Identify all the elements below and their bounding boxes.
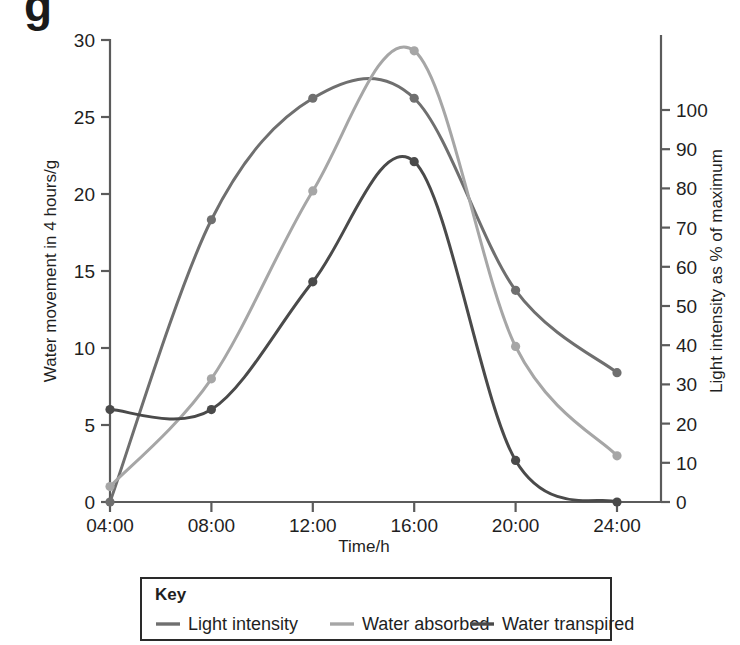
data-point-marker xyxy=(410,46,419,55)
data-point-marker xyxy=(308,94,317,103)
data-point-marker xyxy=(308,186,317,195)
x-tick-label: 16:00 xyxy=(390,515,438,536)
series-line xyxy=(110,78,617,502)
left-tick-label: 25 xyxy=(74,107,95,128)
left-tick-label: 10 xyxy=(74,338,95,359)
x-tick-label: 04:00 xyxy=(86,515,134,536)
data-point-marker xyxy=(105,405,114,414)
series-line xyxy=(110,157,617,502)
left-tick-label: 0 xyxy=(84,492,95,513)
x-tick-label: 24:00 xyxy=(593,515,641,536)
right-tick-label: 30 xyxy=(676,374,697,395)
right-tick-label: 80 xyxy=(676,178,697,199)
legend: Key Light intensityWater absorbedWater t… xyxy=(141,578,634,640)
right-axis-ticks xyxy=(661,110,670,502)
data-point-marker xyxy=(207,405,216,414)
figure-container: g 051015202530 Water movement in 4 hours… xyxy=(0,0,740,645)
line-chart: 051015202530 Water movement in 4 hours/g… xyxy=(0,0,740,645)
right-tick-label: 20 xyxy=(676,414,697,435)
right-axis: 0102030405060708090100 Light intensity a… xyxy=(661,35,726,513)
legend-item-water-transpired[interactable]: Water transpired xyxy=(470,614,634,634)
data-point-marker xyxy=(612,368,621,377)
data-point-marker xyxy=(511,456,520,465)
legend-label: Water transpired xyxy=(502,614,634,634)
data-point-marker xyxy=(410,94,419,103)
legend-label: Light intensity xyxy=(188,614,298,634)
legend-item-light-intensity[interactable]: Light intensity xyxy=(156,614,298,634)
x-axis-tick-labels: 04:0008:0012:0016:0020:0024:00 xyxy=(86,515,641,536)
series-water-absorbed xyxy=(105,46,621,491)
data-point-marker xyxy=(207,215,216,224)
left-tick-label: 5 xyxy=(84,415,95,436)
data-point-marker xyxy=(511,286,520,295)
right-tick-label: 90 xyxy=(676,139,697,160)
left-axis: 051015202530 Water movement in 4 hours/g xyxy=(41,30,110,513)
right-tick-label: 40 xyxy=(676,335,697,356)
data-point-marker xyxy=(612,451,621,460)
left-tick-label: 30 xyxy=(74,30,95,51)
right-tick-label: 50 xyxy=(676,296,697,317)
right-tick-label: 0 xyxy=(676,492,687,513)
data-point-marker xyxy=(308,277,317,286)
series-light-intensity xyxy=(105,78,621,506)
x-axis: 04:0008:0012:0016:0020:0024:00 Time/h xyxy=(86,502,665,556)
left-tick-label: 20 xyxy=(74,184,95,205)
data-point-marker xyxy=(105,482,114,491)
series-line xyxy=(110,47,617,487)
left-axis-ticks xyxy=(101,40,110,502)
x-tick-label: 12:00 xyxy=(289,515,337,536)
data-point-marker xyxy=(511,342,520,351)
data-point-marker xyxy=(612,497,621,506)
x-tick-label: 08:00 xyxy=(188,515,236,536)
left-axis-tick-labels: 051015202530 xyxy=(74,30,95,513)
data-point-marker xyxy=(410,157,419,166)
right-tick-label: 10 xyxy=(676,453,697,474)
data-point-marker xyxy=(207,374,216,383)
right-tick-label: 60 xyxy=(676,257,697,278)
legend-items: Light intensityWater absorbedWater trans… xyxy=(156,614,634,634)
right-axis-tick-labels: 0102030405060708090100 xyxy=(676,100,708,513)
legend-item-water-absorbed[interactable]: Water absorbed xyxy=(330,614,489,634)
legend-title: Key xyxy=(155,585,187,604)
series-layer xyxy=(105,46,621,506)
right-axis-title: Light intensity as % of maximum xyxy=(707,149,726,393)
data-point-marker xyxy=(105,497,114,506)
left-axis-title: Water movement in 4 hours/g xyxy=(41,160,60,382)
x-axis-ticks xyxy=(110,502,617,512)
series-water-transpired xyxy=(105,157,621,507)
left-tick-label: 15 xyxy=(74,261,95,282)
right-tick-label: 100 xyxy=(676,100,708,121)
x-tick-label: 20:00 xyxy=(492,515,540,536)
right-tick-label: 70 xyxy=(676,218,697,239)
x-axis-title: Time/h xyxy=(338,537,389,556)
